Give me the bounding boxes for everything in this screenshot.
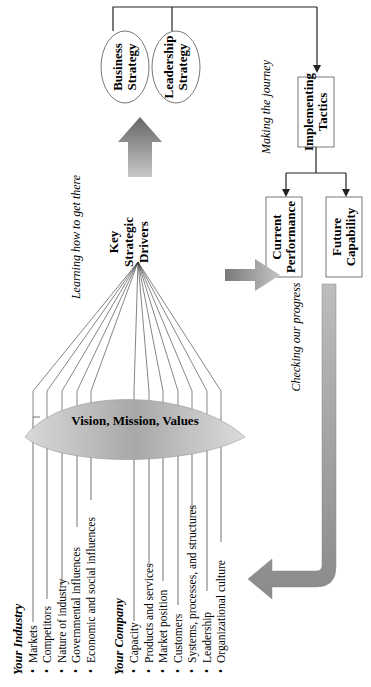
svg-text:Competitors: Competitors — [41, 606, 54, 663]
making-label: Making the journey — [259, 59, 273, 155]
svg-text:Key: Key — [106, 230, 121, 253]
industry-list: Your Industry • Markets • Competitors • … — [11, 517, 97, 675]
svg-text:Tactics: Tactics — [315, 93, 330, 132]
bullet-icon: • — [128, 669, 140, 673]
bullet-icon: • — [186, 669, 198, 673]
diagram-canvas: Your Industry • Markets • Competitors • … — [0, 0, 371, 687]
svg-text:Implementing: Implementing — [301, 73, 316, 152]
svg-text:Market position: Market position — [157, 590, 170, 663]
svg-text:Capacity: Capacity — [128, 622, 141, 663]
company-item: • Organizational culture — [215, 560, 228, 673]
company-item: • Customers — [172, 613, 184, 673]
key-drivers: Key Strategic Drivers — [106, 217, 151, 267]
svg-text:Leadership: Leadership — [161, 36, 176, 99]
bullet-icon: • — [56, 669, 68, 673]
svg-text:Business: Business — [110, 43, 125, 91]
learning-label: Learning how to get there — [69, 174, 83, 300]
svg-text:Nature of industry: Nature of industry — [56, 578, 69, 663]
svg-text:Customers: Customers — [172, 613, 184, 663]
svg-text:Performance: Performance — [283, 201, 298, 273]
leadership-strategy: Leadership Strategy — [152, 31, 200, 103]
svg-text:Economic and social influences: Economic and social influences — [85, 517, 97, 663]
industry-heading: Your Industry — [11, 603, 25, 675]
checking-label: Checking our progress — [289, 282, 303, 391]
svg-text:Governmental influences: Governmental influences — [70, 547, 82, 663]
company-item: • Leadership — [201, 612, 214, 673]
industry-item: • Competitors — [41, 606, 54, 673]
bullet-icon: • — [143, 669, 155, 673]
bullet-icon: • — [157, 669, 169, 673]
bullet-icon: • — [70, 669, 82, 673]
implementing-tactics: Implementing Tactics — [298, 73, 334, 152]
company-item: • Systems, processes, and structures — [186, 504, 199, 673]
svg-text:Future: Future — [329, 218, 344, 256]
svg-text:Drivers: Drivers — [136, 221, 151, 263]
bullet-icon: • — [41, 669, 53, 673]
business-strategy: Business Strategy — [101, 31, 149, 103]
up-arrow-icon — [118, 117, 162, 177]
company-item: • Products and services — [143, 563, 155, 673]
svg-text:Leadership: Leadership — [201, 612, 214, 663]
current-performance: Current Performance — [266, 197, 302, 277]
company-item: • Capacity — [128, 622, 141, 673]
industry-item: • Markets — [27, 625, 39, 673]
company-heading: Your Company — [112, 598, 126, 675]
industry-item: • Economic and social influences — [85, 517, 97, 673]
fan-lines — [33, 262, 221, 417]
svg-text:Strategy: Strategy — [175, 43, 190, 90]
company-list: Your Company • Capacity • Products and s… — [112, 504, 228, 675]
lens-label: Vision, Mission, Values — [71, 413, 198, 428]
industry-item: • Nature of industry — [56, 578, 69, 673]
svg-text:Products and services: Products and services — [143, 563, 155, 663]
future-capability: Future Capability — [326, 197, 362, 277]
svg-text:Strategic: Strategic — [121, 217, 136, 267]
industry-item: • Governmental influences — [70, 547, 82, 673]
company-item: • Market position — [157, 590, 170, 673]
bullet-icon: • — [85, 669, 97, 673]
svg-text:Capability: Capability — [343, 207, 358, 266]
bullet-icon: • — [201, 669, 213, 673]
bullet-icon: • — [215, 669, 227, 673]
svg-text:Current: Current — [269, 214, 284, 260]
strategy-diagram: Your Industry • Markets • Competitors • … — [0, 0, 371, 687]
bullet-icon: • — [172, 669, 184, 673]
bullet-icon: • — [27, 669, 39, 673]
svg-text:Strategy: Strategy — [124, 43, 139, 90]
svg-text:Markets: Markets — [27, 625, 39, 663]
svg-text:Organizational culture: Organizational culture — [215, 560, 228, 663]
svg-text:Systems, processes, and struct: Systems, processes, and structures — [186, 504, 199, 663]
tactics-connector — [286, 147, 346, 193]
vision-lens — [22, 400, 258, 480]
